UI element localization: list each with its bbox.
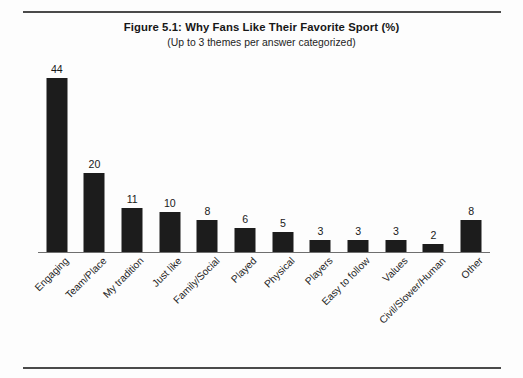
bar-value-label: 3: [393, 225, 399, 237]
bar: [423, 244, 444, 252]
x-axis-tick-labels: EngagingTeam/PlaceMy traditionJust likeF…: [38, 255, 490, 355]
page-title: Figure 5.1: Why Fans Like Their Favorite…: [0, 20, 523, 35]
bar-slot: 6: [226, 63, 264, 252]
chart-plot-area: 4420111086533328: [38, 62, 490, 253]
bar: [348, 240, 369, 252]
bar: [197, 220, 218, 252]
bar: [84, 173, 105, 252]
top-divider-rule: [23, 11, 501, 13]
bar-value-label: 44: [51, 63, 63, 75]
bar: [122, 208, 143, 251]
bar-slot: 3: [339, 63, 377, 252]
bar-series: 4420111086533328: [38, 63, 490, 252]
bar-value-label: 6: [242, 213, 248, 225]
bar-slot: 3: [377, 63, 415, 252]
bar-slot: 10: [151, 63, 189, 252]
bar-value-label: 8: [468, 205, 474, 217]
bar-slot: 20: [76, 63, 114, 252]
bar-value-label: 5: [280, 217, 286, 229]
chart-subtitle: (Up to 3 themes per answer categorized): [0, 36, 523, 50]
bar-slot: 44: [38, 63, 76, 252]
bar: [310, 240, 331, 252]
bar-slot: 11: [113, 63, 151, 252]
bar-value-label: 2: [431, 229, 437, 241]
bar: [235, 228, 256, 252]
x-axis-line: [38, 252, 490, 254]
bottom-divider-rule: [23, 367, 501, 369]
bar-slot: 3: [302, 63, 340, 252]
bar-value-label: 3: [355, 225, 361, 237]
bar: [159, 212, 180, 251]
bar-slot: 8: [189, 63, 227, 252]
figure-page: Figure 5.1: Why Fans Like Their Favorite…: [0, 0, 523, 378]
bar: [385, 240, 406, 252]
bar: [46, 78, 67, 251]
bar-slot: 8: [452, 63, 490, 252]
bar-slot: 2: [415, 63, 453, 252]
bar-value-label: 8: [205, 205, 211, 217]
bar-slot: 5: [264, 63, 302, 252]
bar-value-label: 11: [127, 193, 138, 205]
bar: [272, 232, 293, 252]
bar-value-label: 20: [89, 158, 101, 170]
bar-value-label: 3: [318, 225, 324, 237]
bar: [461, 220, 482, 252]
figure-heading: Figure 5.1: Why Fans Like Their Favorite…: [0, 20, 523, 50]
bar-value-label: 10: [164, 197, 176, 209]
